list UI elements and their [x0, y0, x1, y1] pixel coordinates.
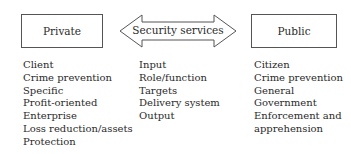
list-item: General	[254, 85, 343, 98]
list-item: Specific	[23, 85, 133, 98]
list-item: Delivery system	[139, 97, 220, 110]
list-item: Profit-oriented	[23, 97, 133, 110]
private-box: Private	[21, 14, 103, 48]
list-item: Output	[139, 110, 220, 123]
list-item: Government	[254, 97, 343, 110]
public-box: Public	[251, 14, 337, 48]
list-item: apprehension	[254, 123, 343, 136]
list-item: Citizen	[254, 59, 343, 72]
list-item: Crime prevention	[254, 72, 343, 85]
security-services-label: Security services	[118, 24, 238, 36]
security-services-attributes-list: Input Role/function Targets Delivery sys…	[139, 59, 220, 123]
public-attributes-list: Citizen Crime prevention General Governm…	[254, 59, 343, 136]
list-item: Protection	[23, 136, 133, 149]
list-item: Role/function	[139, 72, 220, 85]
list-item: Enterprise	[23, 110, 133, 123]
private-attributes-list: Client Crime prevention Specific Profit-…	[23, 59, 133, 149]
list-item: Client	[23, 59, 133, 72]
private-label: Private	[43, 25, 81, 37]
list-item: Crime prevention	[23, 72, 133, 85]
list-item: Input	[139, 59, 220, 72]
list-item: Loss reduction/assets	[23, 123, 133, 136]
list-item: Targets	[139, 85, 220, 98]
list-item: Enforcement and	[254, 110, 343, 123]
public-label: Public	[277, 25, 310, 37]
